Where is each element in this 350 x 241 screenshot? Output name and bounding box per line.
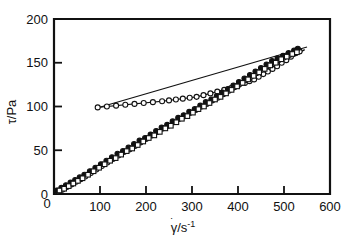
x-tick-label-300: 300 xyxy=(181,199,203,214)
data-point-open-square xyxy=(262,67,267,72)
svg-text:τ/Pa: τ/Pa xyxy=(4,99,19,124)
data-point-open-circle xyxy=(180,96,185,101)
x-tick-label-200: 200 xyxy=(135,199,157,214)
x-tick-label-500: 500 xyxy=(273,199,295,214)
data-point-open-square xyxy=(202,104,207,109)
y-axis-title: τ/Pa xyxy=(4,99,19,124)
data-point-open-circle xyxy=(208,91,213,96)
data-point-open-square xyxy=(218,95,223,100)
data-point-open-circle xyxy=(167,98,172,103)
data-point-open-square xyxy=(169,123,174,128)
data-point-open-square xyxy=(119,152,124,157)
data-point-open-circle xyxy=(141,101,146,106)
data-point-open-square xyxy=(196,107,201,112)
data-point-open-circle xyxy=(201,93,206,98)
data-point-open-square xyxy=(102,162,107,167)
data-point-open-square xyxy=(185,114,190,119)
x-tick-label-100: 100 xyxy=(89,199,111,214)
data-point-open-square xyxy=(207,101,212,106)
data-point-open-square xyxy=(180,116,185,121)
data-point-open-square xyxy=(213,97,218,102)
data-point-open-circle xyxy=(160,99,165,104)
data-point-open-square xyxy=(57,188,62,193)
data-point-open-square xyxy=(284,54,289,59)
data-point-open-square xyxy=(158,130,163,135)
data-point-open-circle xyxy=(187,95,192,100)
data-point-open-square xyxy=(240,81,245,86)
x-axis-title-dot: ˙ xyxy=(170,216,174,228)
x-tick-label-600: 600 xyxy=(319,199,341,214)
y-tick-label-100: 100 xyxy=(26,99,48,114)
data-point-open-square xyxy=(295,50,300,55)
data-point-open-square xyxy=(71,181,76,186)
data-point-open-square xyxy=(146,136,151,141)
data-point-open-square xyxy=(268,63,273,68)
data-point-open-square xyxy=(229,88,234,93)
data-point-open-square xyxy=(191,110,196,115)
data-point-open-square xyxy=(135,143,140,148)
data-point-open-circle xyxy=(123,102,128,107)
data-point-open-circle xyxy=(104,104,109,109)
data-point-open-square xyxy=(66,184,71,189)
data-point-open-square xyxy=(279,57,284,62)
data-point-open-square xyxy=(152,133,157,138)
x-axis-title-unit: /s xyxy=(177,220,188,235)
data-point-open-square xyxy=(91,169,96,174)
data-point-open-square xyxy=(86,172,91,177)
x-tick-label-0: 0 xyxy=(43,196,50,211)
x-tick-label-400: 400 xyxy=(227,199,249,214)
y-tick-label-200: 200 xyxy=(26,12,48,27)
data-point-open-square xyxy=(235,84,240,89)
data-point-open-square xyxy=(124,149,129,154)
data-point-open-circle xyxy=(173,97,178,102)
data-point-open-circle xyxy=(95,105,100,110)
data-point-open-circle xyxy=(132,101,137,106)
data-point-open-circle xyxy=(150,100,155,105)
data-point-open-square xyxy=(273,60,278,65)
data-point-open-square xyxy=(141,139,146,144)
data-point-open-square xyxy=(62,186,67,191)
data-point-open-square xyxy=(174,120,179,125)
data-point-open-square xyxy=(224,91,229,96)
flow-curve-figure: 0 50 100 150 200 0 100 200 300 400 500 6… xyxy=(0,0,350,241)
x-axis-title-exponent: -1 xyxy=(187,219,195,229)
y-axis-title-unit: /Pa xyxy=(4,99,19,119)
data-point-open-square xyxy=(113,156,118,161)
data-point-open-square xyxy=(108,158,113,163)
y-tick-label-50: 50 xyxy=(34,143,48,158)
data-point-open-square xyxy=(257,70,262,75)
data-point-open-square xyxy=(246,77,251,82)
data-point-open-square xyxy=(76,179,81,184)
data-point-open-circle xyxy=(194,94,199,99)
data-point-open-square xyxy=(130,146,135,151)
data-point-open-square xyxy=(251,74,256,79)
y-tick-label-150: 150 xyxy=(26,55,48,70)
data-point-open-square xyxy=(163,126,168,131)
data-point-open-square xyxy=(97,165,102,170)
chart-svg: 0 50 100 150 200 0 100 200 300 400 500 6… xyxy=(0,0,350,241)
data-point-open-square xyxy=(80,176,85,181)
data-point-open-circle xyxy=(114,103,119,108)
data-point-open-square xyxy=(290,52,295,57)
